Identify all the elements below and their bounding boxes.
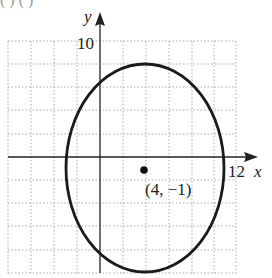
x-axis-arrow-icon xyxy=(244,152,258,162)
y-tick-label: 10 xyxy=(77,34,94,53)
center-point xyxy=(140,166,148,174)
x-axis-label: x xyxy=(253,162,262,181)
ellipse-graph: y 10 12 x (4, −1) xyxy=(0,0,272,278)
axes xyxy=(8,22,248,273)
x-tick-label: 12 xyxy=(228,162,245,181)
y-axis-arrow-icon xyxy=(95,12,105,26)
center-point-label: (4, −1) xyxy=(145,180,191,199)
y-axis-label: y xyxy=(82,7,92,26)
